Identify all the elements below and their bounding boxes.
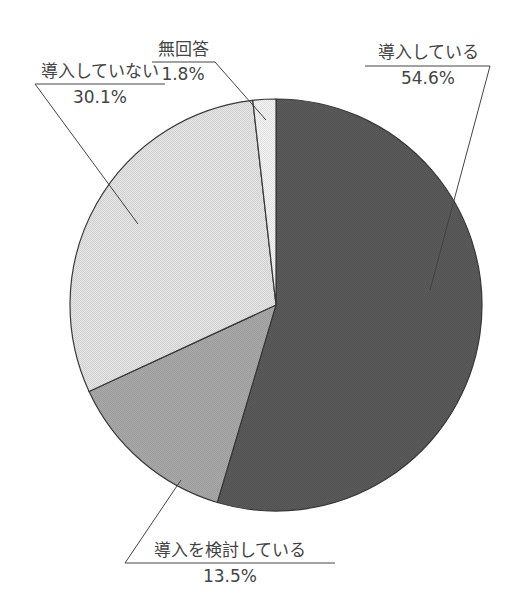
slice-value-label: 13.5% — [203, 566, 257, 586]
slice-label: 導入していない — [41, 61, 159, 81]
callout-label-0: 導入している 54.6% — [378, 42, 479, 88]
slice-label: 導入を検討している — [154, 540, 306, 560]
pie-chart: 導入している 54.6% 導入を検討している 13.5% 導入していない 30.… — [0, 0, 520, 614]
slice-value-label: 1.8% — [161, 64, 204, 84]
slice-label: 導入している — [378, 42, 479, 62]
slice-value-label: 54.6% — [401, 68, 455, 88]
slice-value-label: 30.1% — [73, 87, 127, 107]
slice-label: 無回答 — [158, 39, 209, 59]
